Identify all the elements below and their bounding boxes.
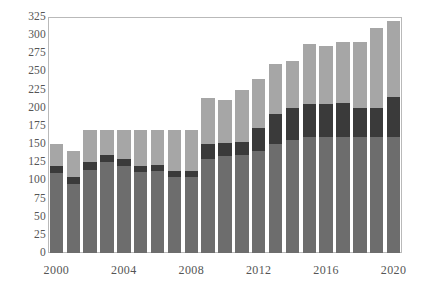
bar-segment-middle — [83, 162, 96, 169]
bar-2006 — [151, 130, 164, 253]
bar-series-group — [48, 17, 402, 253]
x-axis-tick-label: 2012 — [246, 264, 272, 276]
x-axis-tick-label: 2016 — [313, 264, 339, 276]
bar-segment-top — [252, 79, 265, 128]
bar-segment-middle — [353, 108, 366, 137]
bar-2018 — [353, 42, 366, 253]
bar-2013 — [269, 64, 282, 253]
bar-2016 — [319, 46, 332, 253]
bar-2011 — [235, 90, 248, 253]
bar-segment-middle — [50, 166, 63, 173]
bar-segment-middle — [67, 177, 80, 184]
bar-segment-middle — [303, 104, 316, 137]
y-axis-tick-label: 100 — [2, 175, 46, 187]
bar-2020 — [387, 21, 400, 253]
bar-segment-top — [387, 21, 400, 97]
bar-segment-bottom — [117, 166, 130, 253]
bar-segment-top — [151, 130, 164, 166]
bar-2012 — [252, 79, 265, 253]
bar-segment-bottom — [303, 137, 316, 253]
y-axis-tick-label: 200 — [2, 102, 46, 114]
bar-segment-top — [269, 64, 282, 113]
bar-segment-bottom — [269, 144, 282, 253]
bar-2008 — [185, 130, 198, 253]
bar-2019 — [370, 28, 383, 253]
bar-2007 — [168, 130, 181, 253]
bar-segment-top — [353, 42, 366, 107]
bar-segment-top — [134, 130, 147, 166]
x-axis-tick-label: 2000 — [44, 264, 70, 276]
bar-segment-middle — [100, 155, 113, 162]
bar-2017 — [336, 42, 349, 253]
bar-2014 — [286, 61, 299, 253]
bar-segment-middle — [201, 144, 214, 159]
x-axis-tick-label: 2004 — [111, 264, 137, 276]
bar-segment-middle — [336, 103, 349, 137]
bar-segment-top — [286, 61, 299, 108]
x-axis-tick-label: 2020 — [381, 264, 407, 276]
bar-segment-middle — [269, 114, 282, 144]
bar-segment-bottom — [100, 162, 113, 253]
bar-segment-top — [117, 130, 130, 159]
bar-segment-bottom — [235, 155, 248, 253]
bar-segment-middle — [252, 128, 265, 151]
bar-segment-bottom — [168, 177, 181, 253]
y-axis-tick-label: 125 — [2, 156, 46, 168]
bar-segment-bottom — [353, 137, 366, 253]
bar-segment-middle — [235, 142, 248, 155]
y-axis-tick-label: 175 — [2, 120, 46, 132]
bar-segment-middle — [117, 159, 130, 166]
bar-segment-middle — [218, 143, 231, 156]
bar-2001 — [67, 151, 80, 253]
bar-segment-middle — [370, 108, 383, 137]
x-axis: 200020042008201220162020 — [0, 258, 426, 290]
y-axis-tick-label: 275 — [2, 48, 46, 60]
bar-segment-bottom — [286, 140, 299, 253]
bar-segment-top — [218, 100, 231, 144]
bar-segment-bottom — [252, 151, 265, 253]
y-axis: 0255075100125150175200225250275300325 — [0, 0, 46, 290]
y-axis-tick-label: 325 — [2, 11, 46, 23]
bar-segment-middle — [286, 108, 299, 141]
bar-2005 — [134, 130, 147, 253]
y-axis-tick-label: 225 — [2, 84, 46, 96]
bar-segment-top — [370, 28, 383, 108]
bar-segment-top — [100, 130, 113, 155]
bar-segment-top — [201, 98, 214, 144]
bar-2002 — [83, 130, 96, 253]
bar-segment-bottom — [83, 170, 96, 254]
bar-segment-top — [67, 151, 80, 176]
stacked-bar-chart: 0255075100125150175200225250275300325 20… — [0, 0, 426, 290]
bar-segment-top — [168, 130, 181, 171]
bar-segment-top — [83, 130, 96, 163]
bar-segment-top — [319, 46, 332, 104]
bar-2010 — [218, 100, 231, 253]
y-axis-tick-label: 25 — [2, 229, 46, 241]
bar-segment-bottom — [370, 137, 383, 253]
y-axis-tick-label: 75 — [2, 193, 46, 205]
x-axis-tick-label: 2008 — [178, 264, 204, 276]
bar-2003 — [100, 130, 113, 253]
bar-segment-bottom — [218, 156, 231, 253]
bar-segment-bottom — [185, 177, 198, 253]
bar-segment-bottom — [67, 184, 80, 253]
bar-2015 — [303, 44, 316, 253]
bar-segment-top — [235, 90, 248, 142]
bar-segment-bottom — [151, 171, 164, 253]
y-axis-tick-label: 250 — [2, 66, 46, 78]
bar-segment-bottom — [336, 137, 349, 253]
y-axis-tick-label: 300 — [2, 29, 46, 41]
y-axis-tick-label: 50 — [2, 211, 46, 223]
y-axis-tick-label: 150 — [2, 138, 46, 150]
bar-segment-bottom — [50, 173, 63, 253]
bar-segment-top — [50, 144, 63, 166]
bar-segment-top — [185, 130, 198, 171]
bar-segment-bottom — [387, 137, 400, 253]
bar-segment-middle — [387, 97, 400, 137]
bar-segment-top — [336, 42, 349, 102]
bar-segment-bottom — [134, 172, 147, 253]
bar-2009 — [201, 98, 214, 253]
bar-segment-top — [303, 44, 316, 104]
bar-segment-bottom — [201, 159, 214, 253]
bar-2000 — [50, 144, 63, 253]
